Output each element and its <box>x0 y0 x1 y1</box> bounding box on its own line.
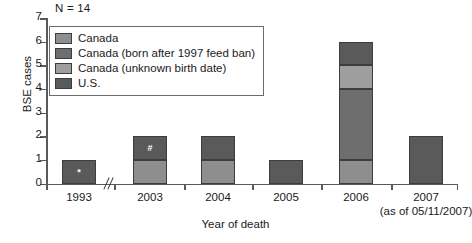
bar-2003: # <box>133 136 167 183</box>
bar-segment <box>339 65 373 89</box>
legend-swatch-icon <box>55 63 72 74</box>
x-tick-label-text: 2003 <box>137 191 163 203</box>
bar-segment <box>409 136 443 183</box>
x-tick-label-note: (as of 05/11/2007) <box>380 204 472 218</box>
y-tick-label: 4 <box>36 81 42 93</box>
x-tick-mark <box>184 184 186 190</box>
legend-item-label: U.S. <box>78 77 100 90</box>
x-tick-label-2005: 2005 <box>273 190 299 204</box>
x-axis-break-icon <box>103 177 116 190</box>
bar-segment-marker: * <box>77 167 81 176</box>
legend-item: Canada <box>55 31 255 46</box>
y-axis-line <box>46 18 48 185</box>
bar-segment <box>269 160 303 184</box>
legend-swatch-icon <box>55 33 72 44</box>
x-axis-title: Year of death <box>0 218 471 230</box>
sample-size-annotation: N = 14 <box>55 2 90 14</box>
legend-item: U.S. <box>55 76 255 91</box>
bar-2004 <box>201 136 235 183</box>
bar-segment <box>201 160 235 184</box>
x-tick-label-text: 2007 <box>413 191 439 203</box>
legend-item-label: Canada <box>78 32 118 45</box>
x-tick-label-text: 2005 <box>273 191 299 203</box>
legend-item: Canada (unknown birth date) <box>55 61 255 76</box>
x-tick-label-2007: 2007(as of 05/11/2007) <box>380 190 472 218</box>
legend-item-label: Canada (born after 1997 feed ban) <box>78 47 255 60</box>
bar-segment <box>339 42 373 66</box>
legend-swatch-icon <box>55 78 72 89</box>
x-tick-label-text: 2006 <box>343 191 369 203</box>
bar-segment <box>201 136 235 160</box>
legend-item: Canada (born after 1997 feed ban) <box>55 46 255 61</box>
bar-segment <box>133 160 167 184</box>
bar-2005 <box>269 160 303 184</box>
x-tick-mark <box>321 184 323 190</box>
x-tick-label-text: 1993 <box>66 191 92 203</box>
y-tick-label: 2 <box>36 128 42 140</box>
x-tick-mark <box>46 184 48 190</box>
legend: CanadaCanada (born after 1997 feed ban)C… <box>49 26 264 96</box>
y-tick-label: 0 <box>36 176 42 188</box>
x-tick-label-1993: 1993 <box>66 190 92 204</box>
bar-segment <box>339 89 373 160</box>
bar-segment: # <box>133 136 167 160</box>
x-tick-label-2003: 2003 <box>137 190 163 204</box>
x-tick-label-text: 2004 <box>205 191 231 203</box>
y-tick-label: 5 <box>36 57 42 69</box>
bar-segment-marker: # <box>147 144 152 153</box>
y-tick-label: 6 <box>36 34 42 46</box>
legend-swatch-icon <box>55 48 72 59</box>
y-tick-label: 3 <box>36 105 42 117</box>
bar-segment: * <box>62 160 96 184</box>
bar-1993: * <box>62 160 96 184</box>
x-tick-label-2006: 2006 <box>343 190 369 204</box>
bar-2007 <box>409 136 443 183</box>
x-tick-label-2004: 2004 <box>205 190 231 204</box>
y-tick-label: 1 <box>36 152 42 164</box>
y-axis-title: BSE cases <box>21 29 33 139</box>
y-tick-label: 7 <box>36 10 42 22</box>
bar-segment <box>339 160 373 184</box>
x-tick-mark <box>252 184 254 190</box>
legend-item-label: Canada (unknown birth date) <box>78 62 226 75</box>
bar-2006 <box>339 42 373 184</box>
